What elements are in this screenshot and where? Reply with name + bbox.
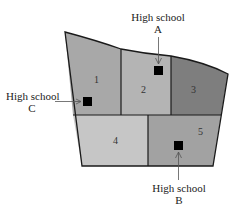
school-b-letter: B bbox=[148, 194, 210, 206]
school-b-title: High school bbox=[148, 182, 210, 194]
zone-5-label: 5 bbox=[198, 127, 203, 137]
school-a-label: High school A bbox=[128, 11, 188, 35]
zone-1-label: 1 bbox=[94, 75, 99, 85]
zone-3 bbox=[171, 56, 228, 115]
school-b-label: High school B bbox=[148, 182, 210, 206]
zone-3-label: 3 bbox=[191, 85, 196, 95]
school-a-letter: A bbox=[128, 23, 188, 35]
school-a-arrow bbox=[156, 37, 162, 64]
zone-2-label: 2 bbox=[141, 85, 146, 95]
school-c-label: High school C bbox=[6, 90, 58, 114]
school-district-map: 1 2 3 4 5 High school A High school C Hi… bbox=[0, 0, 240, 210]
school-c-title: High school bbox=[6, 90, 58, 102]
zone-2 bbox=[121, 49, 171, 115]
zone-4 bbox=[73, 115, 148, 166]
zone-5 bbox=[148, 115, 221, 166]
school-b-marker bbox=[174, 141, 183, 150]
school-c-letter: C bbox=[6, 102, 58, 114]
school-a-title: High school bbox=[128, 11, 188, 23]
school-a-marker bbox=[154, 66, 163, 75]
zone-4-label: 4 bbox=[113, 136, 118, 146]
school-c-marker bbox=[83, 97, 92, 106]
